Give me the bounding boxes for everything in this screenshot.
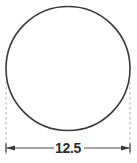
dimension-drawing-svg: 12.5 (0, 0, 137, 163)
drawing-background (0, 0, 137, 163)
technical-drawing-canvas: 12.5 (0, 0, 137, 163)
dimension-value-label: 12.5 (55, 140, 82, 156)
